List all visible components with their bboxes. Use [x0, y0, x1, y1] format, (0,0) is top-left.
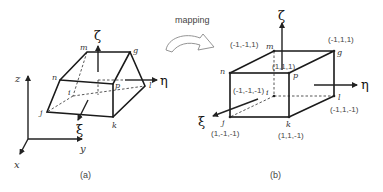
- node-m-label: m: [266, 42, 274, 51]
- panel-a: z y x ζ η ξ m g: [14, 28, 168, 180]
- element-a-edges: [47, 52, 145, 117]
- node-m-label: m: [80, 43, 88, 52]
- xi-axis: [213, 99, 258, 116]
- node-g-label: g: [133, 46, 138, 55]
- eta-label: η: [361, 77, 369, 92]
- coord-j: (1,-1,-1): [211, 129, 240, 138]
- coord-m: (-1,-1,1): [230, 40, 259, 49]
- node-j-label: j: [220, 118, 225, 127]
- isoparametric-mapping-diagram: z y x ζ η ξ m g: [0, 0, 383, 192]
- x-axis: [20, 139, 28, 154]
- caption-b: (b): [270, 170, 281, 180]
- coord-k: (1,1,-1): [278, 131, 304, 140]
- xi-label: ξ: [198, 114, 205, 129]
- node-l-label: l: [338, 93, 341, 102]
- mapping-label: mapping: [175, 15, 210, 25]
- node-i-label: i: [68, 88, 71, 97]
- node-k-label: k: [112, 121, 117, 130]
- node-p-label: p: [115, 81, 120, 90]
- node-i-label: i: [266, 88, 269, 97]
- panel-b: ζ η ξ m g n p i l j k (-1,-1,1) (-1,1,1)…: [198, 8, 369, 180]
- eta-label: η: [160, 73, 168, 88]
- zeta-label: ζ: [94, 28, 101, 43]
- node-n-label: n: [220, 67, 225, 76]
- mapping-arrow: mapping: [166, 15, 214, 52]
- y-axis-label: y: [79, 143, 86, 154]
- xi-axis: [78, 100, 88, 120]
- node-p-label: p: [293, 71, 298, 80]
- coord-p: (1,1,1): [272, 62, 295, 71]
- xi-label: ξ: [76, 122, 83, 137]
- coord-l: (-1,1,-1): [330, 105, 359, 114]
- zeta-label: ζ: [278, 8, 285, 23]
- node-k-label: k: [286, 120, 291, 129]
- coord-g: (-1,1,1): [328, 35, 354, 44]
- node-n-label: n: [52, 73, 57, 82]
- node-g-label: g: [337, 48, 342, 57]
- z-axis-label: z: [14, 73, 21, 84]
- curved-arrow-icon: [166, 34, 214, 52]
- node-labels-a: m g n p i l j k: [38, 43, 152, 130]
- node-l-label: l: [149, 81, 152, 90]
- x-axis-label: x: [14, 159, 20, 170]
- caption-a: (a): [80, 170, 91, 180]
- coord-i: (-1,-1,-1): [233, 86, 264, 95]
- node-j-label: j: [38, 108, 43, 117]
